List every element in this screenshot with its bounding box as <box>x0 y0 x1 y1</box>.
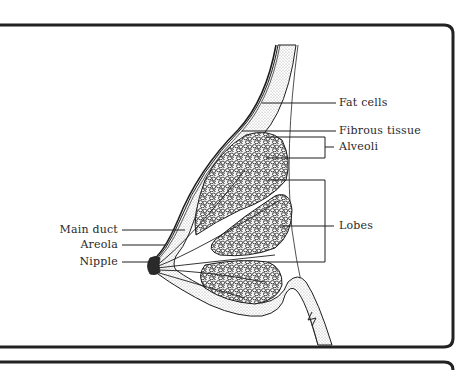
label-fibrous-tissue: Fibrous tissue <box>339 125 421 137</box>
label-nipple: Nipple <box>80 256 118 268</box>
label-fat-cells: Fat cells <box>339 97 388 109</box>
label-lobes: Lobes <box>339 220 373 232</box>
nipple-shape <box>148 257 161 275</box>
label-areola: Areola <box>80 239 118 251</box>
label-alveoli: Alveoli <box>339 141 378 153</box>
frame-bottom-panel <box>0 362 453 370</box>
anatomy-diagram <box>0 0 466 370</box>
label-main-duct: Main duct <box>60 224 118 236</box>
